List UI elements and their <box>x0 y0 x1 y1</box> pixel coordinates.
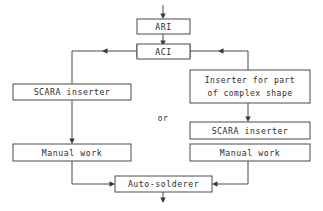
arrowhead-solderer-output <box>160 198 165 204</box>
arrowhead-input-to-ari <box>160 14 165 20</box>
node-inserter-complex-shape-line1: Inserter for part <box>205 76 295 85</box>
arrowhead-scara-left-to-manual-left <box>69 139 74 145</box>
annotation-or-label: or <box>158 114 169 123</box>
arrowhead-aci-left <box>102 48 108 53</box>
node-scara-inserter-right-label: SCARA inserter <box>212 126 289 136</box>
node-inserter-complex-shape-line2: of complex shape <box>207 89 292 98</box>
arrowhead-manual-right-to-solderer <box>212 181 218 186</box>
arrowhead-aci-right <box>218 48 224 53</box>
connector-manual-right-to-solderer <box>215 161 248 184</box>
node-ari-label: ARI <box>155 22 171 32</box>
node-inserter-complex-shape[interactable] <box>190 70 310 103</box>
node-auto-solderer-label: Auto-solderer <box>128 179 199 189</box>
arrowhead-manual-left-to-solderer <box>110 181 116 186</box>
flowchart-page: ARI ACI SCARA inserter Inserter for part… <box>0 0 323 211</box>
flowchart-canvas: ARI ACI SCARA inserter Inserter for part… <box>0 0 323 211</box>
node-scara-inserter-left-label: SCARA inserter <box>34 87 111 97</box>
arrowhead-inserter-to-scara-right <box>245 117 250 123</box>
node-manual-work-left-label: Manual work <box>42 148 102 158</box>
node-manual-work-right-label: Manual work <box>220 148 280 158</box>
connector-manual-left-to-solderer <box>72 161 112 184</box>
node-aci-label: ACI <box>155 47 171 57</box>
